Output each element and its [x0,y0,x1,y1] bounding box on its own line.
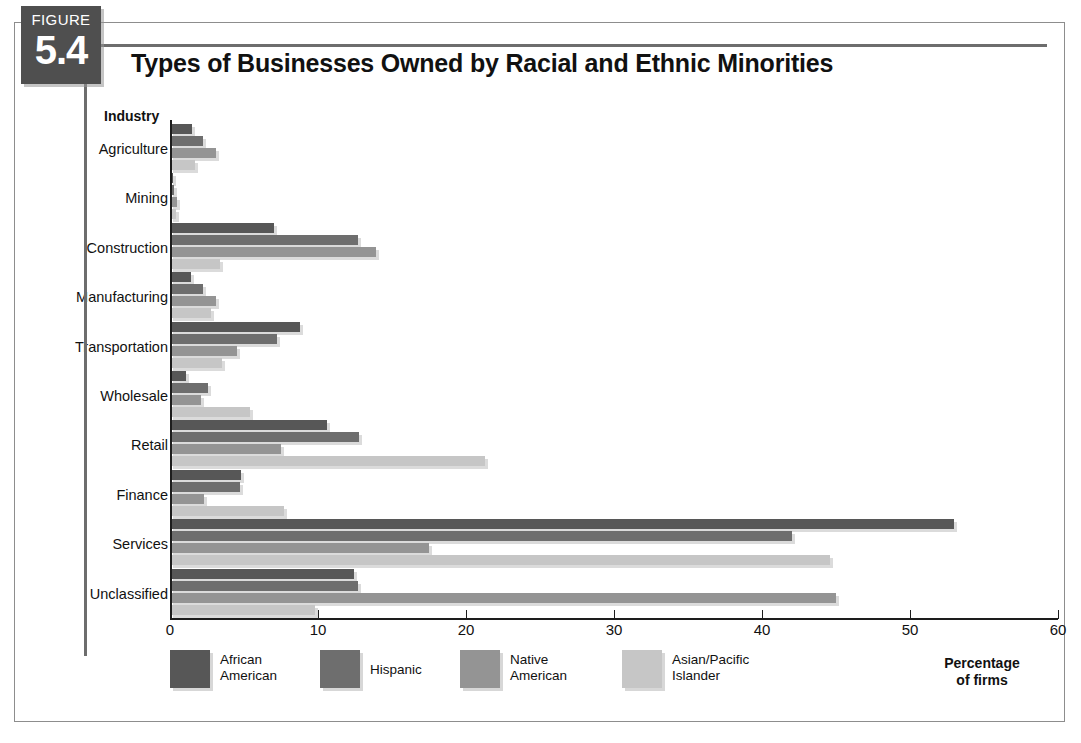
legend-label-line1: African [220,652,277,668]
legend-label-line2: American [510,668,567,684]
bar [170,247,376,257]
title-left-rule [84,44,87,656]
bar [170,555,830,565]
x-tick-label: 20 [446,621,486,638]
x-axis-title: Percentage of firms [912,655,1052,689]
bar [170,296,216,306]
x-tick [170,610,171,619]
bar [170,395,201,405]
x-axis-title-line2: of firms [912,672,1052,689]
legend-swatch [170,650,210,688]
x-tick [614,610,615,619]
legend-swatch [622,650,662,688]
bar [170,519,954,529]
bar [170,593,836,603]
bar [170,456,485,466]
bar [170,235,358,245]
legend-label-line1: Asian/Pacific [672,652,749,668]
legend-label-line1: Hispanic [370,662,422,678]
figure-badge: FIGURE 5.4 [21,6,101,84]
x-tick [762,610,763,619]
x-tick-label: 10 [298,621,338,638]
bar [170,543,429,553]
figure-badge-number: 5.4 [21,26,101,74]
x-tick-label: 0 [150,621,190,638]
x-tick [466,610,467,619]
bar [170,371,186,381]
bar [170,432,359,442]
bar [170,420,327,430]
bar [170,334,277,344]
bar [170,346,237,356]
legend-label-line2: American [220,668,277,684]
bar [170,506,284,516]
x-axis-title-line1: Percentage [912,655,1052,672]
bar [170,482,240,492]
bar [170,272,191,282]
x-tick-label: 30 [594,621,634,638]
bar [170,284,203,294]
figure-root: FIGURE 5.4 Types of Businesses Owned by … [0,0,1081,743]
bar [170,581,358,591]
bar [170,160,195,170]
bar [170,605,315,615]
chart-plot-area: Industry AgricultureMiningConstructionMa… [0,0,1081,743]
legend-label-line2: Islander [672,668,749,684]
x-tick-label: 50 [890,621,930,638]
legend-swatch [460,650,500,688]
chart-legend: AfricanAmericanHispanicNativeAmericanAsi… [170,648,870,704]
bar [170,259,220,269]
legend-label: NativeAmerican [510,652,567,684]
bar [170,136,203,146]
legend-label: Hispanic [370,662,422,678]
bar [170,308,211,318]
bar [170,494,204,504]
bar [170,358,222,368]
x-tick [1058,610,1059,619]
bar [170,531,792,541]
y-axis-line [170,120,172,620]
legend-label: Asian/PacificIslander [672,652,749,684]
bar [170,148,216,158]
legend-swatch [320,650,360,688]
title-horizontal-rule [101,44,1047,47]
bar [170,383,208,393]
bar [170,444,281,454]
bar [170,124,192,134]
x-tick-label: 60 [1038,621,1078,638]
x-tick-label: 40 [742,621,782,638]
bar [170,223,274,233]
legend-label: AfricanAmerican [220,652,277,684]
x-tick [910,610,911,619]
bar [170,322,300,332]
legend-label-line1: Native [510,652,567,668]
bar [170,470,241,480]
x-tick [318,610,319,619]
industry-axis-header: Industry [104,108,159,124]
bar [170,569,354,579]
bar [170,407,250,417]
